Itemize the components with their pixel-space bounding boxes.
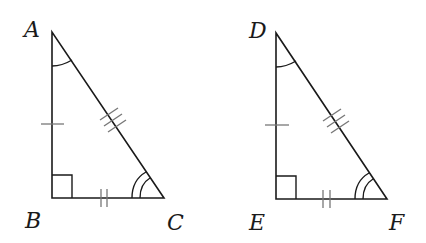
double-angle-arc-c <box>132 172 150 198</box>
congruent-triangles-diagram: A B C D E F <box>0 0 426 243</box>
vertex-label-c: C <box>167 210 184 235</box>
angle-arc-a <box>52 60 72 66</box>
double-angle-arc-f <box>355 173 373 199</box>
vertex-label-d: D <box>248 18 267 43</box>
triple-tick-mark-ac <box>100 108 126 132</box>
right-angle-mark-e <box>276 176 296 199</box>
vertex-label-b: B <box>24 208 41 233</box>
vertex-label-f: F <box>388 210 405 235</box>
angle-arc-d <box>276 61 296 67</box>
right-angle-mark-b <box>52 175 72 198</box>
triangle-abc <box>41 32 164 207</box>
triangle-def <box>265 33 387 208</box>
vertex-label-a: A <box>22 17 40 42</box>
vertex-label-e: E <box>248 210 265 235</box>
triple-tick-mark-df <box>323 109 349 133</box>
